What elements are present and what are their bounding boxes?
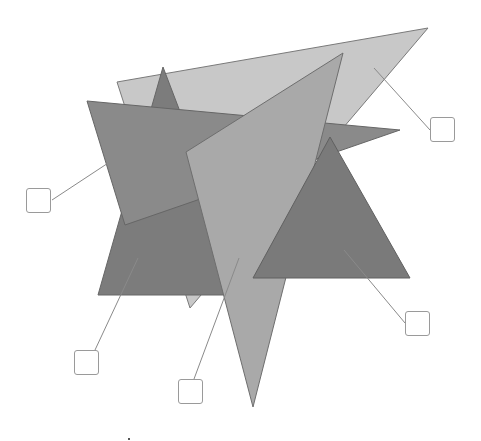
label-box-4[interactable] — [74, 350, 99, 375]
shapes-layer — [87, 28, 428, 407]
label-box-2[interactable] — [430, 117, 455, 142]
label-box-1[interactable] — [26, 188, 51, 213]
leader-2 — [374, 68, 430, 130]
label-box-3[interactable] — [405, 311, 430, 336]
stray-mark — [128, 438, 130, 440]
diagram-canvas — [0, 0, 481, 441]
label-box-5[interactable] — [178, 379, 203, 404]
